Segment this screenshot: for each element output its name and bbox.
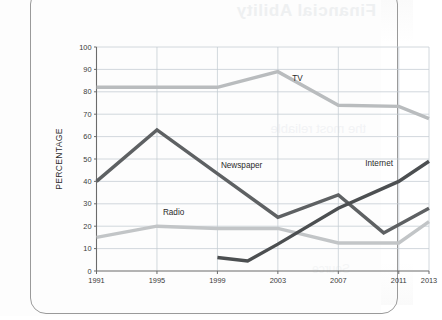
x-tick-label: 2011 (391, 276, 407, 285)
y-tick-label: 70 (83, 110, 91, 119)
y-tick-label: 20 (83, 222, 91, 231)
y-tick-labels: 0102030405060708090100 (79, 43, 91, 276)
x-tick-label: 2003 (270, 276, 286, 285)
y-tick-label: 50 (83, 155, 91, 164)
y-tick-label: 30 (83, 199, 91, 208)
x-tick-label: 2007 (330, 276, 346, 285)
chart-svg: 0102030405060708090100 19911995199920032… (40, 16, 442, 320)
series-line-radio (97, 222, 430, 243)
y-tick-label: 0 (87, 267, 91, 276)
x-tick-label: 1991 (88, 276, 104, 285)
x-tick-label: 1999 (209, 276, 225, 285)
line-chart: 0102030405060708090100 19911995199920032… (40, 16, 442, 320)
x-tick-labels: 1991199519992003200720112013 (88, 276, 437, 285)
y-tick-label: 100 (79, 43, 91, 52)
series-labels: TVNewspaperRadioInternet (163, 74, 394, 217)
y-tick-label: 60 (83, 132, 91, 141)
series-line-tv (97, 72, 430, 119)
series-label-tv: TV (292, 74, 303, 83)
y-tick-label: 90 (83, 65, 91, 74)
series-label-radio: Radio (163, 208, 185, 217)
series-line-internet (217, 161, 429, 261)
x-tick-label: 1995 (149, 276, 165, 285)
y-tick-label: 80 (83, 87, 91, 96)
y-tick-label: 40 (83, 177, 91, 186)
series-label-newspaper: Newspaper (221, 161, 263, 170)
y-tick-label: 10 (83, 244, 91, 253)
x-tick-label: 2013 (421, 276, 437, 285)
series-label-internet: Internet (365, 159, 393, 168)
y-axis-title: PERCENTAGE (54, 128, 64, 190)
